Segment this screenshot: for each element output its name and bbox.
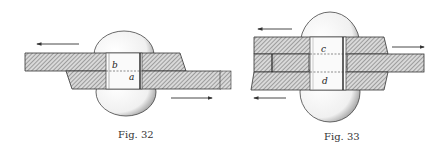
label-c: c <box>321 44 326 54</box>
upper-plate <box>25 53 186 71</box>
middle-plate-left-stub <box>220 71 231 89</box>
caption-fig-33: Fig. 33 <box>324 131 360 142</box>
rivet-shank <box>310 37 346 90</box>
figure-32: b a <box>25 31 221 116</box>
caption-fig-32: Fig. 32 <box>118 129 154 140</box>
middle-plate-right <box>347 54 424 72</box>
label-d: d <box>322 76 328 86</box>
label-a: a <box>129 72 134 82</box>
middle-plate-left <box>254 54 309 72</box>
lower-plate <box>66 71 221 89</box>
diagram-canvas: b a c d <box>0 0 441 148</box>
label-b: b <box>112 60 118 70</box>
figure-33: c d <box>220 12 424 122</box>
